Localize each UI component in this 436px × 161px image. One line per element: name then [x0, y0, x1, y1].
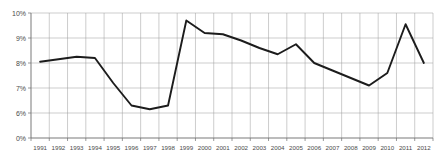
y-tick-label: 7% [16, 85, 26, 92]
x-tick-label: 1995 [106, 144, 120, 151]
vertical-gridlines [31, 13, 433, 138]
x-tick-label: 2012 [417, 144, 431, 151]
x-tick-label: 1998 [161, 144, 175, 151]
x-tick-label: 2001 [216, 144, 230, 151]
x-tick-label: 2007 [326, 144, 340, 151]
x-tick-label: 1996 [125, 144, 139, 151]
tick-marks [28, 13, 433, 141]
x-tick-label: 1993 [70, 144, 84, 151]
x-tick-label: 1997 [143, 144, 157, 151]
x-tick-label: 2000 [198, 144, 212, 151]
x-tick-label: 2008 [344, 144, 358, 151]
line-chart: 10%9%8%7%6%0% 19911992199319941995199619… [0, 0, 436, 161]
x-tick-label: 1992 [52, 144, 66, 151]
x-tick-label: 2002 [234, 144, 248, 151]
x-tick-label: 1999 [179, 144, 193, 151]
chart-canvas: 10%9%8%7%6%0% 19911992199319941995199619… [0, 0, 436, 161]
chart-plot-area: 10%9%8%7%6%0% 19911992199319941995199619… [0, 0, 436, 161]
x-tick-label: 1991 [33, 144, 47, 151]
y-tick-label: 10% [12, 10, 26, 17]
y-axis-tick-labels: 10%9%8%7%6%0% [12, 10, 26, 142]
y-tick-label: 6% [16, 110, 26, 117]
x-tick-label: 2009 [362, 144, 376, 151]
y-tick-label: 0% [16, 135, 26, 142]
x-tick-label: 2010 [380, 144, 394, 151]
x-tick-label: 2011 [399, 144, 413, 151]
y-tick-label: 9% [16, 35, 26, 42]
x-tick-label: 1994 [88, 144, 102, 151]
x-tick-label: 2004 [271, 144, 285, 151]
x-tick-label: 2005 [289, 144, 303, 151]
x-axis-tick-labels: 1991199219931994199519961997199819992000… [33, 144, 431, 151]
x-tick-label: 2003 [253, 144, 267, 151]
y-tick-label: 8% [16, 60, 26, 67]
x-tick-label: 2006 [307, 144, 321, 151]
